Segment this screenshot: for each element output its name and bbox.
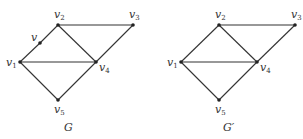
vertex-label-v: v (31, 31, 38, 44)
vertex-label-v1: v1 (167, 56, 178, 70)
vertex-label-v1: v1 (6, 56, 17, 70)
vertex-label-v4: v4 (99, 61, 110, 75)
graph-g-prime: v1v2v3v4v5G′ (167, 8, 302, 134)
vertex-v3 (293, 23, 297, 27)
vertex-label-v2: v2 (215, 8, 226, 22)
graph-diagram: v1v2v3v4v5vGv1v2v3v4v5G′ (0, 0, 303, 139)
edge-v5-v4 (219, 62, 257, 100)
vertex-v5 (56, 98, 60, 102)
edge-v3-v4 (96, 25, 133, 62)
vertex-label-v4: v4 (260, 61, 271, 75)
edge-v1-v (20, 43, 40, 62)
graph-caption: G (64, 121, 73, 134)
edge-v2-v4 (58, 25, 96, 62)
vertex-label-v3: v3 (129, 8, 140, 22)
vertex-v1 (18, 60, 22, 64)
edge-v-v2 (40, 25, 58, 43)
edge-v2-v4 (219, 25, 257, 62)
vertex-label-v3: v3 (291, 8, 302, 22)
edge-v1-v5 (20, 62, 58, 100)
vertex-label-v5: v5 (54, 103, 65, 117)
vertex-v2 (56, 23, 60, 27)
edge-v1-v5 (181, 62, 219, 100)
edge-v1-v2 (181, 25, 219, 62)
vertex-v4 (255, 60, 259, 64)
vertex-label-v2: v2 (54, 8, 65, 22)
graph-caption: G′ (223, 121, 235, 134)
vertex-label-v5: v5 (215, 103, 226, 117)
vertex-v1 (179, 60, 183, 64)
edge-v3-v4 (257, 25, 295, 62)
vertex-v (38, 41, 42, 45)
edge-v5-v4 (58, 62, 96, 100)
vertex-v2 (217, 23, 221, 27)
vertex-v4 (94, 60, 98, 64)
vertex-v3 (131, 23, 135, 27)
vertex-v5 (217, 98, 221, 102)
graph-g: v1v2v3v4v5vG (6, 8, 140, 134)
